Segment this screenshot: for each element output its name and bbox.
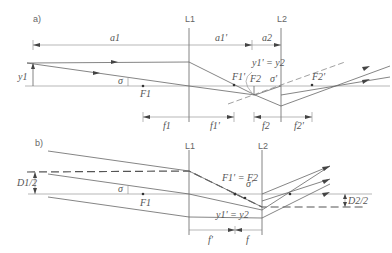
lens-l2-label: L2 — [277, 14, 287, 24]
construction-line — [228, 62, 345, 104]
focal-f2-label: F2 — [249, 73, 261, 84]
focal-len-f1-prime: f1' — [210, 120, 221, 131]
panel-a: a) L1 L2 a1 a1' a2 y1 σ σ' — [17, 14, 390, 131]
focal-len-f-prime-b: f' — [208, 234, 214, 245]
ray-parallel — [27, 62, 390, 106]
angle-sigma-prime-a: σ' — [270, 73, 278, 84]
focal-eq-label-b: F1' = F2 — [221, 172, 258, 183]
dim-a2: a2 — [262, 32, 272, 43]
optics-diagram: a) L1 L2 a1 a1' a2 y1 σ σ' — [0, 0, 392, 253]
image-eq-label: y1' = y2 — [251, 57, 285, 68]
diagram-svg: a) L1 L2 a1 a1' a2 y1 σ σ' — [0, 0, 392, 253]
dim-a1-prime: a1' — [215, 32, 228, 43]
dim-a1: a1 — [110, 32, 120, 43]
focal-len-f2-prime: f2' — [294, 120, 305, 131]
panel-a-label: a) — [33, 14, 41, 24]
focal-f1-label: F1 — [139, 88, 151, 99]
beam-half-d2-label: D2/2 — [347, 195, 368, 206]
focal-f1-label-b: F1 — [139, 197, 151, 208]
panel-b: b) L1 L2 D1/2 D2/2 σ σ' F1 — [16, 138, 372, 245]
panel-b-label: b) — [35, 138, 43, 148]
object-height-label: y1 — [17, 71, 27, 82]
focal-f1-prime-label: F1' — [231, 71, 246, 82]
lens-l2-label-b: L2 — [258, 141, 268, 151]
focal-f2-prime-label: F2' — [311, 71, 326, 82]
lens-l1-label-b: L1 — [185, 141, 195, 151]
focal-len-f-b: f — [246, 234, 250, 245]
beam-half-d1-label: D1/2 — [16, 177, 37, 188]
lens-l1-label: L1 — [185, 14, 195, 24]
image-eq-label-b: y1' = y2 — [215, 209, 249, 220]
focal-len-f1: f1 — [163, 120, 171, 131]
focal-len-f2: f2 — [262, 120, 270, 131]
